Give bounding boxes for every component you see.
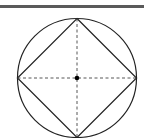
- center-point: [75, 76, 80, 81]
- geometry-diagram: [0, 0, 144, 138]
